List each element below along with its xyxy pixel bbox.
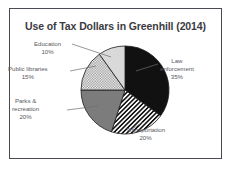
pie-label-law-enforcement-name-2: enforcement xyxy=(160,65,194,73)
pie-label-public-libraries-name: Public libraries xyxy=(8,65,48,72)
pie-label-law-enforcement: Law enforcement 35% xyxy=(160,57,194,81)
pie-label-law-enforcement-name-1: Law xyxy=(171,57,182,64)
pie-label-education-value: 10% xyxy=(34,48,61,56)
pie-label-parks-recreation-value: 20% xyxy=(12,113,39,121)
pie-label-public-libraries: Public libraries 15% xyxy=(8,65,48,81)
pie-label-transportation-name: Transportation xyxy=(126,126,165,133)
pie-slices xyxy=(81,46,169,134)
pie-label-parks-recreation: Parks & recreation 20% xyxy=(12,97,39,121)
chart-frame: Use of Tax Dollars in Greenhill (2014) xyxy=(9,8,222,159)
pie-label-law-enforcement-value: 35% xyxy=(160,73,194,81)
pie-label-parks-recreation-name-2: recreation xyxy=(12,105,39,113)
pie-label-education: Education 10% xyxy=(34,40,61,56)
pie-label-public-libraries-value: 15% xyxy=(8,73,48,81)
pie-label-transportation: Transportation 20% xyxy=(126,126,165,142)
pie-chart-graphic xyxy=(10,9,223,160)
pie-label-education-name: Education xyxy=(34,40,61,47)
pie-label-transportation-value: 20% xyxy=(126,134,165,142)
pie-label-parks-recreation-name-1: Parks & xyxy=(15,97,36,104)
